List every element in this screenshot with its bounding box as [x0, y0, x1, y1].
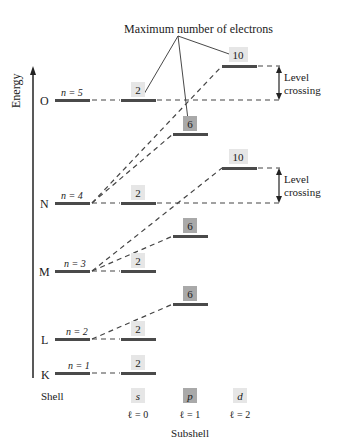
n-label: n = 5 — [61, 87, 83, 98]
shell-letter: K — [41, 368, 50, 382]
capacity-s: 2 — [135, 255, 141, 267]
svg-text:crossing: crossing — [284, 186, 321, 198]
n-label: n = 2 — [66, 326, 88, 337]
subshell-s: s — [136, 390, 140, 402]
shell-letter: O — [40, 94, 49, 108]
shell-letter: N — [40, 197, 49, 211]
subshell-d: d — [237, 390, 243, 402]
n-label: n = 1 — [68, 360, 90, 371]
shell-letter: L — [41, 333, 48, 347]
diagram-title: Maximum number of electrons — [124, 22, 273, 36]
subshell-label: Subshell — [171, 427, 209, 439]
n-label: n = 3 — [64, 258, 86, 269]
capacity-s: 2 — [135, 84, 141, 96]
subshell-p: p — [186, 390, 193, 402]
energy-label: Energy — [9, 74, 23, 108]
level-crossing-label: Level — [284, 173, 309, 185]
l-label: ℓ = 2 — [230, 409, 250, 420]
l-label: ℓ = 0 — [128, 409, 148, 420]
capacity-p: 6 — [187, 220, 193, 232]
energy-level-diagram: Energy Maximum number of electrons Leve — [0, 0, 341, 443]
level-crossing-label: Level — [284, 71, 309, 83]
arrow-up-icon — [30, 66, 36, 75]
shell-label: Shell — [41, 390, 64, 402]
capacity-s: 2 — [135, 357, 141, 369]
capacity-d: 10 — [233, 49, 245, 61]
shell-letter: M — [39, 265, 50, 279]
capacity-p: 6 — [187, 288, 193, 300]
capacity-d: 10 — [233, 151, 245, 163]
capacity-s: 2 — [135, 323, 141, 335]
capacity-s: 2 — [135, 187, 141, 199]
l-label: ℓ = 1 — [180, 409, 200, 420]
n-label: n = 4 — [61, 190, 83, 201]
svg-text:crossing: crossing — [284, 84, 321, 96]
capacity-p: 6 — [187, 118, 193, 130]
